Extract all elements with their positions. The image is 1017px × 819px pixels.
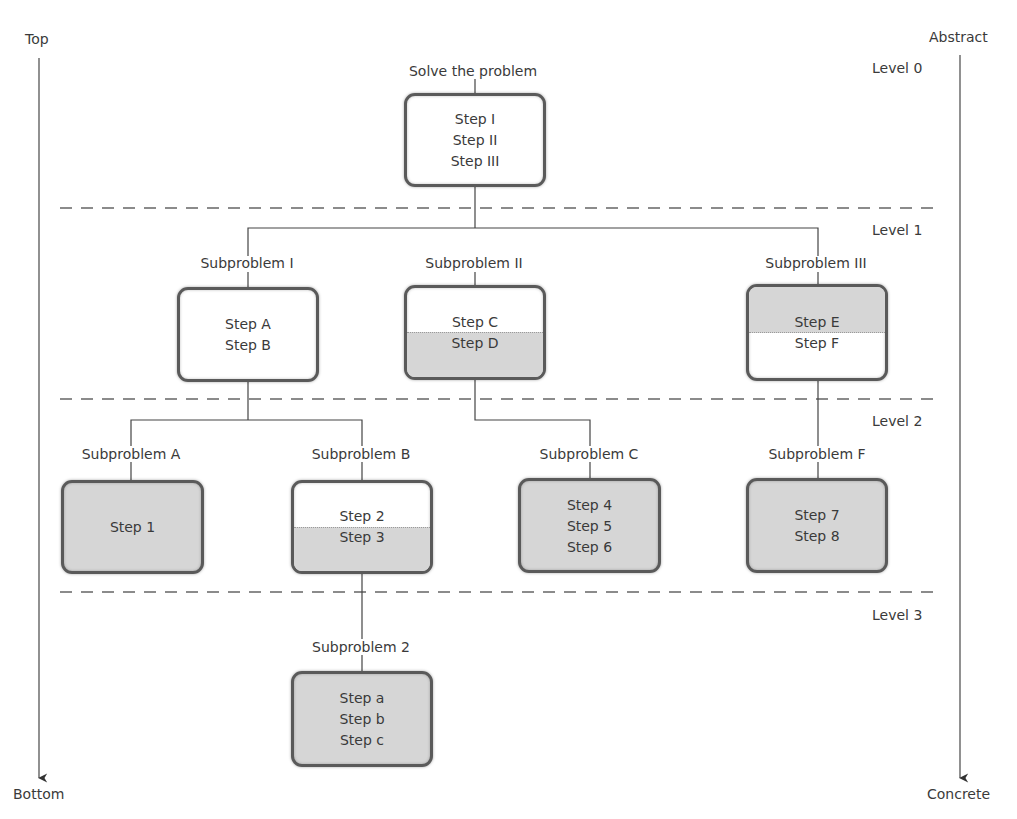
node-box-subproblem-2: Step a Step b Step c (291, 671, 433, 767)
node-box-subproblem-i: Step A Step B (177, 287, 319, 382)
level-label-3: Level 3 (872, 607, 922, 623)
step-label: Step D (407, 333, 543, 354)
node-title-root: Solve the problem (409, 63, 537, 79)
node-title-subproblem-b: Subproblem B (312, 446, 411, 462)
step-label: Step 3 (294, 527, 430, 548)
level-label-2: Level 2 (872, 413, 922, 429)
step-label: Step a (294, 688, 430, 709)
step-label: Step 2 (294, 506, 430, 527)
step-label: Step 6 (521, 536, 658, 557)
step-label: Step 8 (749, 526, 885, 547)
step-label: Step 4 (521, 494, 658, 515)
axis-label-bottom: Bottom (13, 786, 64, 802)
node-title-subproblem-ii: Subproblem II (425, 255, 522, 271)
step-label: Step C (407, 312, 543, 333)
step-label: Step E (749, 312, 885, 333)
axis-label-top: Top (25, 31, 49, 47)
node-title-subproblem-f: Subproblem F (768, 446, 865, 462)
step-label: Step b (294, 709, 430, 730)
node-box-subproblem-c: Step 4 Step 5 Step 6 (518, 478, 661, 573)
node-box-root: Step I Step II Step III (404, 93, 546, 187)
step-label: Step II (407, 130, 543, 151)
step-label: Step B (180, 335, 316, 356)
level-label-0: Level 0 (872, 60, 922, 76)
node-title-subproblem-a: Subproblem A (82, 446, 181, 462)
node-title-subproblem-iii: Subproblem III (765, 255, 866, 271)
step-label: Step 7 (749, 505, 885, 526)
node-title-subproblem-2: Subproblem 2 (312, 639, 410, 655)
node-box-subproblem-ii: Step C Step D (404, 285, 546, 380)
step-label: Step c (294, 730, 430, 751)
level-label-1: Level 1 (872, 222, 922, 238)
step-label: Step III (407, 151, 543, 172)
step-label: Step 1 (64, 517, 201, 538)
node-box-subproblem-b: Step 2 Step 3 (291, 480, 433, 574)
axis-label-abstract: Abstract (929, 29, 988, 45)
step-label: Step A (180, 314, 316, 335)
node-box-subproblem-f: Step 7 Step 8 (746, 478, 888, 573)
node-title-subproblem-i: Subproblem I (200, 255, 293, 271)
node-title-subproblem-c: Subproblem C (540, 446, 639, 462)
step-label: Step 5 (521, 515, 658, 536)
node-box-subproblem-a: Step 1 (61, 480, 204, 574)
node-box-subproblem-iii: Step E Step F (746, 284, 888, 381)
step-label: Step I (407, 109, 543, 130)
axis-label-concrete: Concrete (927, 786, 990, 802)
step-label: Step F (749, 333, 885, 354)
